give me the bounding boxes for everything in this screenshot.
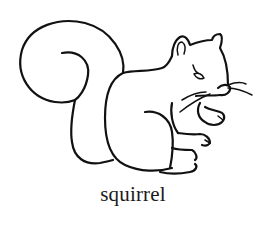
squirrel-body (105, 56, 178, 171)
caption-label: squirrel (0, 182, 266, 207)
squirrel-head (172, 34, 252, 112)
squirrel-paws (160, 103, 224, 174)
